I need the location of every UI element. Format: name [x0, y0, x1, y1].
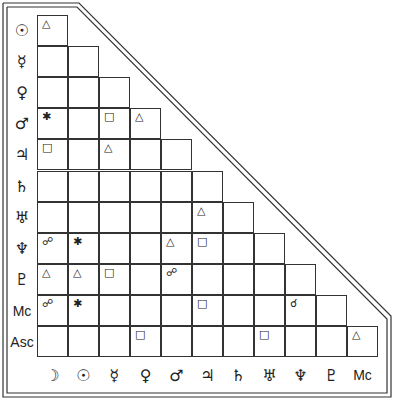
column-label-pluto: ♇ [316, 360, 347, 390]
grid-cell-neptune-venus [130, 233, 161, 264]
grid-cell-uranus-moon [37, 202, 68, 233]
aspect-symbol: □ [197, 298, 207, 310]
grid-cell-midheaven-sun: ✱ [68, 295, 99, 326]
aspect-symbol: △ [73, 267, 81, 279]
column-label-uranus: ♅ [254, 360, 285, 390]
grid-cell-mars-venus: △ [130, 108, 161, 139]
aspect-symbol: △ [352, 329, 360, 341]
grid-cell-ascendant-sun [68, 326, 99, 357]
grid-cell-neptune-sun: ✱ [68, 233, 99, 264]
column-label-midheaven: Mc [347, 360, 378, 390]
grid-cell-sun-moon: △ [37, 15, 68, 46]
column-label-mars: ♂ [161, 360, 192, 390]
grid-cell-pluto-venus [130, 264, 161, 295]
grid-cell-saturn-jupiter [192, 171, 223, 202]
grid-cell-ascendant-uranus: □ [254, 326, 285, 357]
row-label-saturn: ♄ [8, 171, 36, 202]
column-label-sun: ☉ [68, 360, 99, 390]
grid-cell-ascendant-moon [37, 326, 68, 357]
grid-cell-ascendant-midheaven: △ [347, 326, 378, 357]
column-label-moon: ☽ [37, 360, 68, 390]
grid-cell-pluto-jupiter [192, 264, 223, 295]
grid-cell-mercury-moon [37, 46, 68, 77]
row-label-pluto: ♇ [8, 264, 36, 295]
aspect-symbol: △ [42, 18, 50, 30]
row-label-midheaven: Mc [8, 295, 36, 326]
grid-cell-pluto-mercury: □ [99, 264, 130, 295]
grid-cell-jupiter-mercury: △ [99, 139, 130, 170]
row-label-ascendant: Asc [8, 326, 36, 357]
grid-cell-saturn-mercury [99, 171, 130, 202]
grid-cell-uranus-sun [68, 202, 99, 233]
aspect-symbol: ☍ [42, 298, 53, 310]
grid-cell-mars-moon: ✱ [37, 108, 68, 139]
grid-cell-uranus-jupiter: △ [192, 202, 223, 233]
grid-cell-mercury-sun [68, 46, 99, 77]
grid-cell-pluto-moon: △ [37, 264, 68, 295]
grid-cell-pluto-sun: △ [68, 264, 99, 295]
column-label-mercury: ☿ [99, 360, 130, 390]
column-label-saturn: ♄ [223, 360, 254, 390]
grid-cell-uranus-venus [130, 202, 161, 233]
grid-cell-neptune-jupiter: □ [192, 233, 223, 264]
grid-cell-midheaven-mercury [99, 295, 130, 326]
grid-cell-mars-mercury: □ [99, 108, 130, 139]
row-label-mars: ♂ [8, 108, 36, 139]
grid-cell-saturn-venus [130, 171, 161, 202]
grid-cell-mars-sun [68, 108, 99, 139]
aspect-symbol: ☍ [166, 267, 177, 279]
column-label-neptune: ♆ [285, 360, 316, 390]
grid-cell-ascendant-mercury [99, 326, 130, 357]
grid-cell-jupiter-moon: □ [37, 139, 68, 170]
grid-cell-jupiter-sun [68, 139, 99, 170]
grid-cell-ascendant-jupiter [192, 326, 223, 357]
grid-cell-ascendant-pluto [316, 326, 347, 357]
grid-cell-midheaven-mars [161, 295, 192, 326]
grid-cell-ascendant-mars [161, 326, 192, 357]
grid-cell-uranus-saturn [223, 202, 254, 233]
grid-cell-pluto-uranus [254, 264, 285, 295]
aspect-symbol: □ [42, 142, 52, 154]
grid-cell-midheaven-jupiter: □ [192, 295, 223, 326]
grid-cell-midheaven-pluto [316, 295, 347, 326]
grid-cell-pluto-neptune [285, 264, 316, 295]
grid-cell-neptune-moon: ☍ [37, 233, 68, 264]
grid-cell-pluto-mars: ☍ [161, 264, 192, 295]
aspect-symbol: □ [104, 267, 114, 279]
grid-cell-venus-mercury [99, 77, 130, 108]
grid-cell-midheaven-neptune: ☌ [285, 295, 316, 326]
aspect-symbol: ✱ [73, 298, 82, 310]
aspect-symbol: ☍ [42, 236, 53, 248]
aspect-symbol: △ [166, 236, 174, 248]
grid-cell-midheaven-uranus [254, 295, 285, 326]
grid-cell-neptune-mercury [99, 233, 130, 264]
row-label-venus: ♀ [8, 77, 36, 108]
grid-cell-midheaven-venus [130, 295, 161, 326]
aspect-symbol: ✱ [73, 236, 82, 248]
row-label-uranus: ♅ [8, 202, 36, 233]
column-label-jupiter: ♃ [192, 360, 223, 390]
row-label-jupiter: ♃ [8, 139, 36, 170]
aspect-symbol: ✱ [42, 111, 51, 123]
grid-cell-venus-moon [37, 77, 68, 108]
grid-cell-ascendant-venus: □ [130, 326, 161, 357]
aspect-symbol: △ [104, 142, 112, 154]
aspect-symbol: □ [135, 329, 145, 341]
grid-cell-ascendant-neptune [285, 326, 316, 357]
row-label-mercury: ☿ [8, 46, 36, 77]
grid-cell-saturn-sun [68, 171, 99, 202]
grid-cell-neptune-saturn [223, 233, 254, 264]
aspect-symbol: □ [259, 329, 269, 341]
column-label-venus: ♀ [130, 360, 161, 390]
grid-cell-pluto-saturn [223, 264, 254, 295]
row-label-neptune: ♆ [8, 233, 36, 264]
grid-cell-jupiter-venus [130, 139, 161, 170]
grid-cell-midheaven-moon: ☍ [37, 295, 68, 326]
grid-cell-saturn-moon [37, 171, 68, 202]
aspect-symbol: △ [135, 111, 143, 123]
aspect-symbol: △ [42, 267, 50, 279]
aspect-symbol: ☌ [290, 298, 297, 310]
grid-cell-saturn-mars [161, 171, 192, 202]
grid-cell-jupiter-mars [161, 139, 192, 170]
grid-cell-neptune-uranus [254, 233, 285, 264]
